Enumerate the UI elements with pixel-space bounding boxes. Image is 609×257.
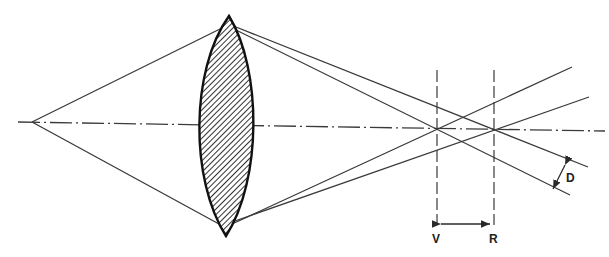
ray-top-to-R: [236, 27, 588, 167]
optical-axis: [18, 122, 605, 131]
label-R: R: [489, 232, 498, 246]
label-V: V: [432, 232, 440, 246]
dimension-D: [553, 165, 565, 189]
ray-top-to-V: [236, 30, 570, 195]
object-ray-lower: [32, 122, 219, 224]
lens-diagram: V R D: [0, 0, 609, 257]
biconvex-lens: [199, 16, 253, 236]
label-D: D: [566, 171, 575, 185]
ray-bottom-to-V: [232, 67, 572, 224]
object-ray-upper: [32, 28, 222, 122]
